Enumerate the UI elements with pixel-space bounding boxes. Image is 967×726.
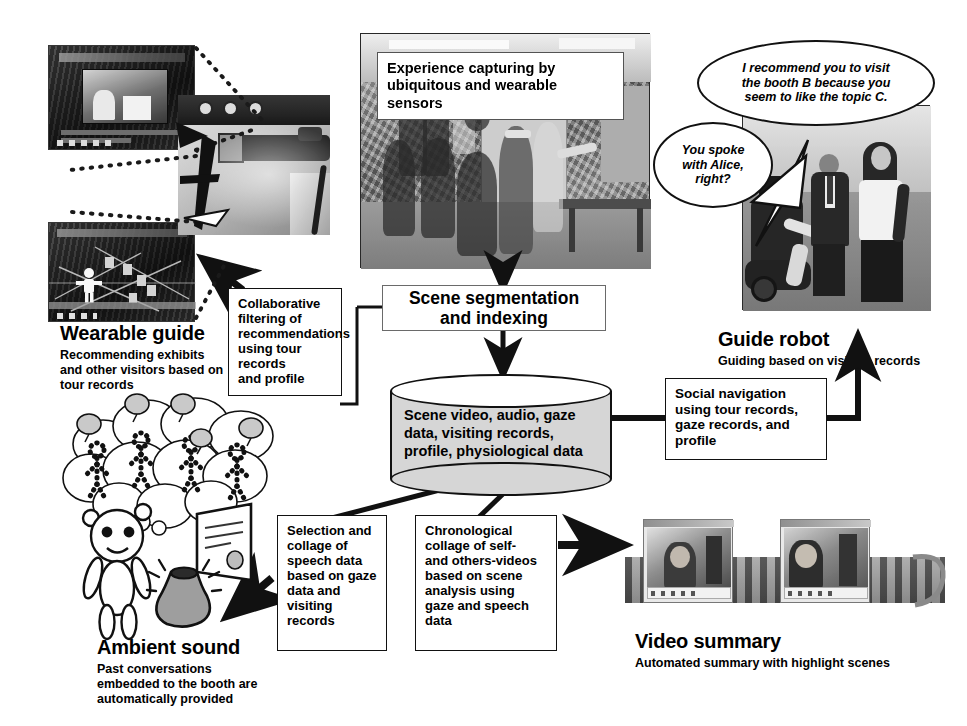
social-navigation-box: Social navigation using tour records, ga… [665,378,827,460]
video-summary-strip [625,505,945,615]
scene-segmentation-line-2: and indexing [409,308,579,328]
video-player-window-man [780,519,870,603]
scene-segmentation-line-1: Scene segmentation [409,288,579,308]
collab-line-3: recommendations [238,326,332,341]
video-collage-box: Chronological collage of self- and other… [415,515,557,651]
hmd-connector-wedges [150,100,350,260]
video-collage-line-6: gaze and speech [425,598,547,613]
video-collage-line-5: analysis using [425,583,547,598]
robot-recommend-balloon: I recommend you to visit the booth B bec… [697,40,935,126]
collab-line-2: filtering of [238,311,332,326]
robot-ask-balloon: You spoke with Alice, right? [653,122,773,208]
collab-line-4: using tour records [238,341,332,371]
ambient-sound-illustration [55,392,305,627]
collab-line-1: Collaborative [238,296,332,311]
speech-collage-line-7: records [287,613,377,628]
speech-collage-line-4: based on gaze [287,568,377,583]
video-player-window-woman [643,519,733,603]
robot-recommend-line-1: I recommend you to visit [742,61,891,76]
video-collage-line-7: data [425,613,547,628]
video-collage-line-4: based on scene [425,568,547,583]
collab-line-5: and profile [238,371,332,386]
robot-recommend-line-3: seem to like the topic C. [742,90,891,105]
video-collage-line-1: Chronological [425,523,547,538]
database-line-3: profile, physiological data [404,442,598,460]
diagram-canvas: Wearable guide Recommending exhibits and… [0,0,967,726]
speech-collage-line-2: collage of [287,538,377,553]
database-line-1: Scene video, audio, gaze [404,406,598,424]
database-cylinder: Scene video, audio, gaze data, visiting … [390,374,612,496]
speech-collage-line-3: speech data [287,553,377,568]
scene-segmentation-box: Scene segmentation and indexing [382,285,606,331]
social-nav-line-2: using tour records, [675,402,817,418]
database-line-2: data, visiting records, [404,424,598,442]
robot-recommend-line-2: the booth B because you [742,76,891,91]
speech-collage-line-1: Selection and [287,523,377,538]
robot-ask-line-1: You spoke [682,143,745,158]
collaborative-filtering-box: Collaborative filtering of recommendatio… [228,288,342,396]
speech-collage-box: Selection and collage of speech data bas… [277,515,387,651]
speech-collage-line-5: data and [287,583,377,598]
social-nav-line-4: profile [675,433,817,449]
social-nav-line-3: gaze records, and [675,417,817,433]
robot-ask-line-3: right? [682,172,745,187]
robot-ask-line-2: with Alice, [682,158,745,173]
social-nav-line-1: Social navigation [675,386,817,402]
speech-collage-line-6: visiting [287,598,377,613]
database-label: Scene video, audio, gaze data, visiting … [390,406,612,460]
video-collage-line-3: and others-videos [425,553,547,568]
video-collage-line-2: collage of self- [425,538,547,553]
